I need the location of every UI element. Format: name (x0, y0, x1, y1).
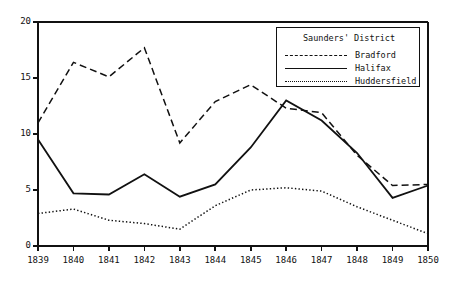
y-tick-label: 5 (4, 185, 31, 194)
y-tick-label: 15 (4, 73, 31, 82)
y-tick-label: 0 (4, 241, 31, 250)
legend-label-halifax: Halifax (355, 62, 391, 75)
legend-swatch-bradford (285, 55, 347, 56)
y-tick-label: 20 (4, 17, 31, 26)
legend-entry-huddersfield: Huddersfield (285, 75, 417, 88)
x-tick-label: 1850 (406, 256, 450, 265)
legend-label-huddersfield: Huddersfield (355, 75, 416, 88)
series-line-halifax (38, 100, 428, 197)
legend-swatch-halifax (285, 68, 347, 69)
legend-swatch-huddersfield (285, 81, 347, 82)
legend-entry-bradford: Bradford (285, 49, 417, 62)
line-chart: 05101520 1839184018411842184318441845184… (0, 0, 453, 284)
legend-label-bradford: Bradford (355, 49, 396, 62)
legend: Saunders' District Bradford Halifax Hudd… (276, 27, 420, 87)
legend-entry-halifax: Halifax (285, 62, 417, 75)
y-tick-label: 10 (4, 129, 31, 138)
legend-title: Saunders' District (277, 33, 421, 43)
